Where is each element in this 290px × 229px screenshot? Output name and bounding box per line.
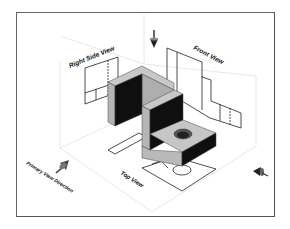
view-arrow-down-icon: [150, 30, 158, 48]
view-arrow-primary-icon: [56, 160, 69, 173]
isometric-projection-diagram: Right Side View Front View Top View Prim…: [0, 0, 290, 229]
isometric-solid: [108, 66, 216, 166]
top-view-label: Top View: [119, 170, 144, 189]
view-arrow-side-icon: [253, 167, 268, 176]
front-view-label: Front View: [193, 44, 226, 66]
